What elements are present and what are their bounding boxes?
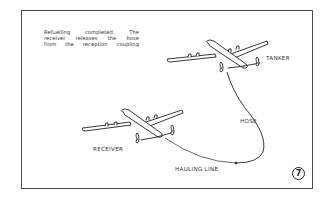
hauling-line-label: HAULING LINE	[175, 166, 218, 172]
receiver-aircraft-icon	[82, 109, 183, 143]
figure-number-badge: 7	[292, 167, 305, 180]
hauling-line	[165, 138, 236, 163]
tanker-aircraft-icon	[167, 40, 268, 72]
receiver-label: RECEIVER	[93, 146, 123, 152]
coupling-point-icon	[235, 162, 237, 164]
refuelling-illustration	[0, 0, 333, 200]
hose-label: HOSE	[240, 118, 257, 124]
tanker-label: TANKER	[266, 55, 290, 61]
